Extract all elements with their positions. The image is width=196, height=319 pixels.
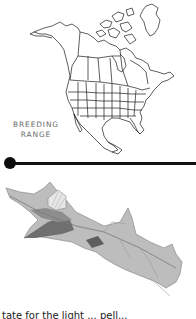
caption-text: tate for the light ... pell...	[2, 310, 196, 319]
divider-dot-icon	[4, 157, 16, 169]
leaf-insect-drawing	[0, 178, 196, 300]
section-divider	[0, 155, 196, 171]
label-line-1: BREEDING	[10, 120, 62, 130]
breeding-range-label: BREEDING RANGE	[10, 120, 62, 139]
label-line-2: RANGE	[10, 130, 62, 140]
specimen-illustration	[0, 178, 196, 300]
divider-line	[12, 162, 196, 165]
